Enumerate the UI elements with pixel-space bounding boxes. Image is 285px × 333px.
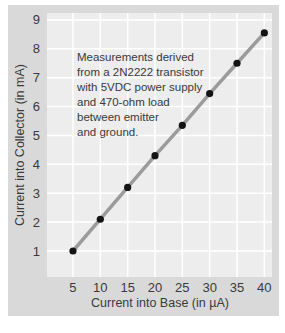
y-tick-label: 6 bbox=[33, 99, 40, 114]
x-tick-label: 10 bbox=[93, 280, 107, 295]
y-tick-label: 9 bbox=[33, 12, 40, 27]
x-tick-label: 40 bbox=[257, 280, 271, 295]
x-tick-label: 30 bbox=[202, 280, 216, 295]
data-point bbox=[151, 152, 158, 159]
y-tick-label: 1 bbox=[33, 244, 40, 259]
data-point bbox=[261, 29, 268, 36]
chart-panel: 510152025303540123456789 Measurements de… bbox=[8, 5, 279, 316]
x-tick-label: 35 bbox=[230, 280, 244, 295]
x-tick-label: 20 bbox=[148, 280, 162, 295]
y-tick-label: 8 bbox=[33, 41, 40, 56]
x-tick-label: 5 bbox=[69, 280, 76, 295]
chart-annotation: Measurements derived from a 2N2222 trans… bbox=[77, 50, 227, 140]
data-point bbox=[233, 60, 240, 67]
y-axis-title: Current into Collector (in mA) bbox=[13, 64, 27, 226]
y-tick-label: 2 bbox=[33, 215, 40, 230]
x-tick-label: 15 bbox=[120, 280, 134, 295]
y-tick-label: 7 bbox=[33, 70, 40, 85]
data-point bbox=[69, 247, 76, 254]
data-point bbox=[124, 184, 131, 191]
x-tick-label: 25 bbox=[175, 280, 189, 295]
data-point bbox=[97, 216, 104, 223]
y-tick-label: 4 bbox=[33, 157, 40, 172]
y-tick-label: 5 bbox=[33, 128, 40, 143]
y-tick-label: 3 bbox=[33, 186, 40, 201]
figure-page: 510152025303540123456789 Measurements de… bbox=[0, 0, 285, 333]
x-axis-title: Current into Base (in µA) bbox=[91, 296, 229, 310]
